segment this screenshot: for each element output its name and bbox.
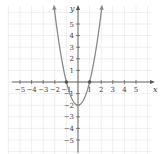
x-axis-label: x (153, 85, 158, 94)
x-tick-label: −3 (38, 86, 48, 94)
x-tick-label: 3 (111, 86, 115, 94)
y-tick-label: 4 (70, 32, 75, 40)
y-tick-label: 2 (70, 55, 74, 63)
x-tick-label: −2 (50, 86, 60, 94)
y-tick-label: 5 (70, 21, 74, 29)
x-tick-label: 4 (122, 86, 127, 94)
y-tick-label: −5 (64, 137, 74, 145)
root-point (88, 80, 92, 84)
x-tick-label: 5 (134, 86, 138, 94)
grid-lines (8, 5, 152, 153)
root-point (65, 80, 69, 84)
x-tick-label: −5 (15, 86, 25, 94)
y-axis-label: y (69, 4, 75, 13)
parabola-graph: −5−4−3−2−11234554321−1−2−3−4−5 x y (0, 0, 160, 154)
y-tick-label: −4 (64, 125, 75, 133)
y-tick-label: 1 (70, 67, 74, 75)
axes (12, 5, 155, 153)
y-tick-label: 3 (70, 44, 74, 52)
x-tick-label: −4 (26, 86, 37, 94)
y-tick-label: −3 (64, 113, 74, 121)
axis-ticks: −5−4−3−2−11234554321−1−2−3−4−5 (15, 21, 138, 145)
y-tick-label: −2 (64, 102, 74, 110)
x-tick-label: 2 (99, 86, 103, 94)
